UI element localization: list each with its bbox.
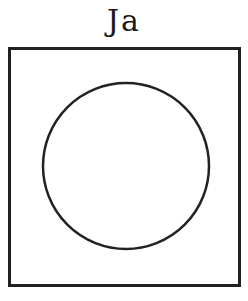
vote-circle-mark-area[interactable] [43, 83, 209, 249]
vote-circle[interactable] [0, 0, 248, 301]
